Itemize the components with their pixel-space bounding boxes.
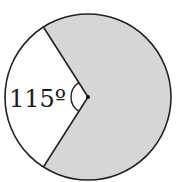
center-point bbox=[86, 95, 90, 99]
angle-label: 115º bbox=[9, 85, 66, 113]
angle-arc bbox=[71, 83, 79, 112]
circle-diagram: 115º bbox=[0, 0, 183, 182]
